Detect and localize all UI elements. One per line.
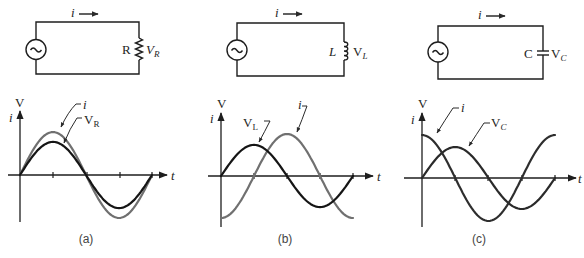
caption-a: (a) [79,232,94,246]
y-axis-label-v: V [217,96,227,111]
circuit-c-capacitor: i C VC [428,7,567,79]
voltage-label: VC [551,46,567,63]
x-axis-label: t [377,169,381,184]
component-label: C [524,46,533,61]
circuit-b-inductor: i L VL [227,5,367,76]
x-axis-label: t [578,171,582,186]
curve-label-i: i [461,100,465,115]
ac-circuits-figure: i R VR V i t i VR [0,0,584,258]
y-axis-label-v: V [418,96,428,111]
curve-label-v: VR [84,112,99,129]
ac-source-icon [227,40,247,60]
caption-b: (b) [278,232,293,246]
component-label: L [328,44,336,59]
y-axis-label-i: i [210,111,214,126]
leader-arrow-icon [437,108,459,133]
inductor-icon [344,42,348,60]
curve-label-v: VC [491,115,507,132]
circuit-a-resistor: i R VR [26,5,160,74]
component-label: R [122,42,131,57]
panel-a: i R VR V i t i VR [8,5,175,246]
curve-label-i: i [298,97,302,112]
resistor-icon [136,38,143,60]
current-label: i [275,5,279,20]
graph-a: V i t i VR [8,95,175,222]
ac-source-icon [428,42,448,62]
voltage-label: VL [353,44,367,61]
graph-b: V i t VL i [208,96,381,227]
panel-b: i L VL V i t VL i [208,5,381,246]
voltage-label: VR [146,42,160,59]
y-axis-label-i: i [411,112,415,127]
current-label: i [478,7,482,22]
capacitor-icon [537,51,549,55]
caption-c: (c) [472,232,486,246]
y-axis-label-v: V [15,95,25,110]
ac-source-icon [26,40,46,60]
x-axis-label: t [171,168,175,183]
leader-arrow-icon [61,104,81,127]
y-axis-label-i: i [9,110,13,125]
leader-arrow-icon [259,121,270,142]
graph-c: V i t i VC [404,96,582,227]
curve-label-i: i [83,97,87,112]
panel-c: i C VC V i t i [404,7,582,246]
current-label: i [71,5,75,20]
circuit-wire [237,23,344,76]
curve-label-v: VL [243,115,258,132]
leader-arrow-icon [469,123,490,146]
